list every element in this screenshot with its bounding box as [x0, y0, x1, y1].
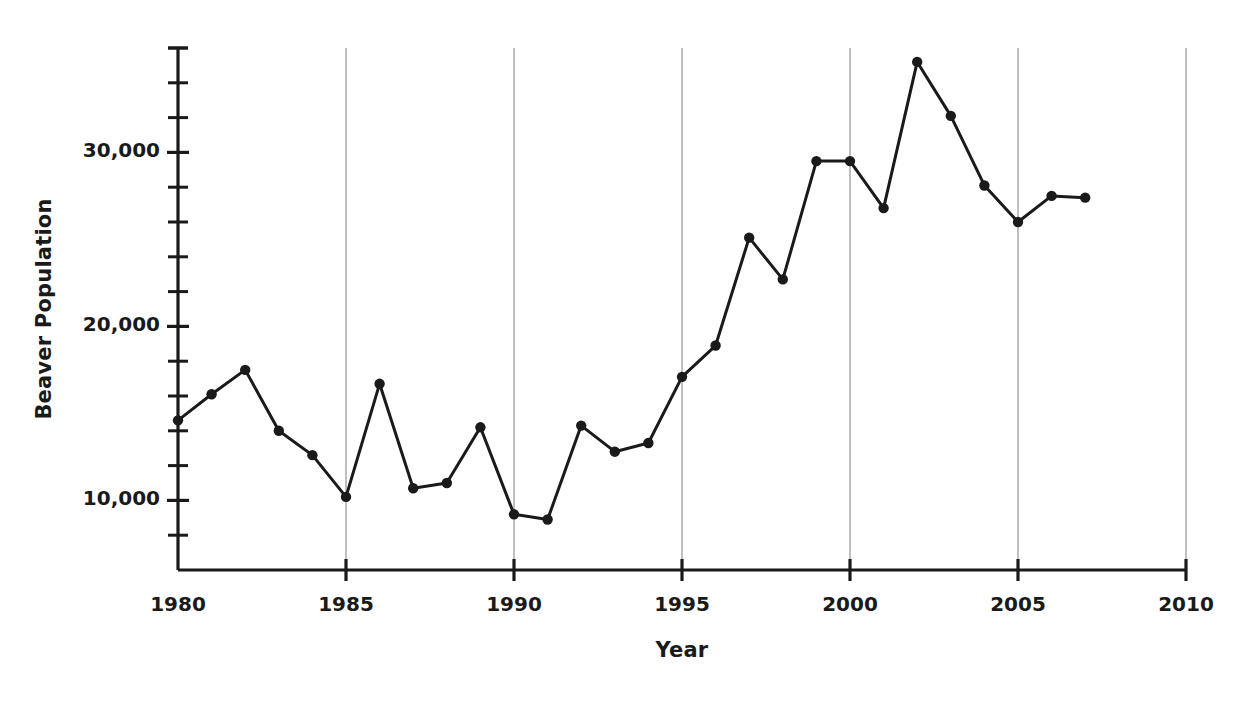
- data-point: [912, 57, 922, 67]
- x-tick-label: 2005: [958, 592, 1078, 616]
- data-point: [206, 389, 216, 399]
- x-tick-label: 2010: [1126, 592, 1246, 616]
- data-point: [341, 492, 351, 502]
- data-point: [1046, 191, 1056, 201]
- data-point: [542, 514, 552, 524]
- data-point: [811, 156, 821, 166]
- data-point: [778, 274, 788, 284]
- data-point: [946, 111, 956, 121]
- data-point: [710, 340, 720, 350]
- data-point: [643, 438, 653, 448]
- x-tick-label: 2000: [790, 592, 910, 616]
- data-point: [1080, 192, 1090, 202]
- data-point: [240, 365, 250, 375]
- x-tick-label: 1995: [622, 592, 742, 616]
- data-point: [475, 422, 485, 432]
- data-point: [845, 156, 855, 166]
- x-tick-label: 1985: [286, 592, 406, 616]
- data-point: [442, 478, 452, 488]
- x-tick-label: 1980: [118, 592, 238, 616]
- y-tick-label: 30,000: [83, 138, 160, 162]
- data-point: [173, 415, 183, 425]
- data-point: [677, 372, 687, 382]
- data-point: [979, 180, 989, 190]
- axis-ticks: [167, 48, 1186, 581]
- data-point: [1013, 217, 1023, 227]
- data-point: [878, 203, 888, 213]
- beaver-population-chart: Beaver Population Year 10,00020,00030,00…: [0, 0, 1255, 703]
- x-tick-label: 1990: [454, 592, 574, 616]
- data-points: [173, 57, 1091, 525]
- data-point: [408, 483, 418, 493]
- gridlines: [346, 48, 1186, 570]
- data-point: [509, 509, 519, 519]
- y-tick-label: 10,000: [83, 486, 160, 510]
- data-point: [576, 420, 586, 430]
- data-point: [744, 232, 754, 242]
- y-tick-label: 20,000: [83, 312, 160, 336]
- data-point: [307, 450, 317, 460]
- data-point: [274, 426, 284, 436]
- data-point: [610, 446, 620, 456]
- data-point: [374, 379, 384, 389]
